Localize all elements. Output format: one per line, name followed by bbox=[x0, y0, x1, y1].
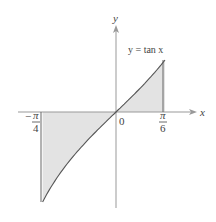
function-label: y = tan x bbox=[128, 44, 163, 55]
svg-text:π: π bbox=[33, 109, 39, 121]
svg-text:π: π bbox=[160, 109, 166, 121]
x-axis-label: x bbox=[199, 106, 205, 118]
origin-label: 0 bbox=[119, 115, 125, 127]
svg-text:4: 4 bbox=[33, 122, 39, 134]
svg-text:−: − bbox=[25, 110, 31, 122]
tan-area-chart: y x y = tan x 0 − π 4 π 6 bbox=[0, 0, 216, 222]
svg-text:6: 6 bbox=[160, 122, 166, 134]
tick-label-neg-pi-over-4: − π 4 bbox=[25, 109, 40, 134]
tick-label-pi-over-6: π 6 bbox=[159, 109, 167, 134]
y-axis-label: y bbox=[112, 12, 118, 24]
